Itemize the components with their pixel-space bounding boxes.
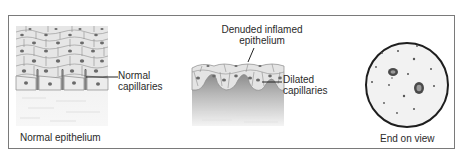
dilated-capillaries-pointer (262, 80, 284, 84)
dilated-capillaries-label: Dilated capillaries (283, 74, 327, 96)
inflamed-epithelium-illustration (192, 60, 284, 126)
normal-capillaries-pointer (86, 75, 120, 79)
end-on-view-illustration (364, 41, 450, 129)
end-on-view-caption: End on view (380, 133, 434, 144)
normal-epithelium-caption: Normal epithelium (20, 132, 101, 143)
denuded-epithelium-label: Denuded inflamed epithelium (217, 24, 307, 46)
normal-capillaries-label: Normal capillaries (118, 70, 162, 92)
